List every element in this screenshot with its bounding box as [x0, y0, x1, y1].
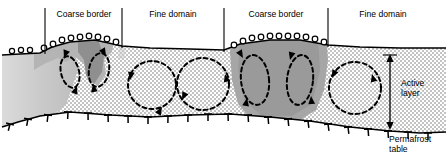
- label-active-layer-line2: layer: [401, 88, 420, 98]
- label-coarse-border-1: Coarse border: [57, 9, 112, 19]
- diagram-canvas: Coarse border Fine domain Coarse border …: [0, 0, 448, 163]
- label-active-layer-line1: Active: [401, 78, 425, 88]
- label-fine-domain-1: Fine domain: [149, 9, 197, 19]
- label-permafrost-table-line2: table: [389, 144, 408, 154]
- label-permafrost-table-line1: Permafrost: [389, 134, 432, 144]
- label-coarse-border-2: Coarse border: [249, 9, 304, 19]
- label-fine-domain-2: Fine domain: [359, 9, 407, 19]
- permafrost-cross-section-figure: Coarse border Fine domain Coarse border …: [0, 0, 448, 163]
- coarse-border-2-core: [238, 36, 320, 116]
